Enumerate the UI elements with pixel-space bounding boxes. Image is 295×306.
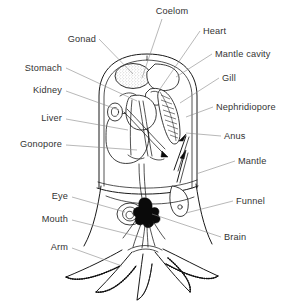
label-gonad: Gonad [68,34,96,44]
leader-line-brain [152,214,221,237]
label-brain: Brain [224,232,246,242]
kidney-organ [108,103,123,121]
gill-organ [158,90,180,144]
leader-line-kidney [66,91,119,110]
leader-line-gill [180,78,219,103]
label-gill: Gill [222,73,236,83]
label-gonopore: Gonopore [20,139,62,149]
label-mantle: Mantle [238,156,266,166]
arm-item [155,252,190,292]
label-kidney: Kidney [33,85,62,95]
label-mantle-cavity: Mantle cavity [215,49,271,59]
head-region [84,164,212,252]
funnel-flow-arrow [177,150,188,183]
leader-line-funnel [186,201,233,213]
leader-line-mantle [196,161,235,174]
arm-item [66,250,122,279]
leader-line-nephridiopore [186,107,213,117]
label-funnel: Funnel [236,196,265,206]
label-liver: Liver [41,113,62,123]
arm-crown [66,249,218,300]
label-coelom: Coelom [156,6,189,16]
anus-opening [150,157,164,160]
label-nephridiopore: Nephridiopore [216,102,276,112]
arm-item [163,249,218,279]
leader-line-anus [186,133,221,136]
label-eye: Eye [52,191,68,201]
visceral-mass [106,56,189,183]
label-mouth: Mouth [42,214,68,224]
anatomy-illustration: Coelom Heart Mantle cavity Gonad Gill St… [0,0,295,306]
squid-anatomy-diagram: Coelom Heart Mantle cavity Gonad Gill St… [0,0,295,306]
label-arm: Arm [51,242,68,252]
label-stomach: Stomach [25,63,62,73]
label-heart: Heart [203,26,227,36]
label-anus: Anus [224,131,246,141]
